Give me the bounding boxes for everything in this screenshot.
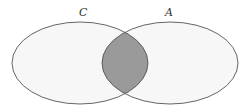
venn-diagram: C A xyxy=(0,0,245,106)
set-c-label: C xyxy=(79,6,88,19)
set-a-label: A xyxy=(164,6,173,19)
